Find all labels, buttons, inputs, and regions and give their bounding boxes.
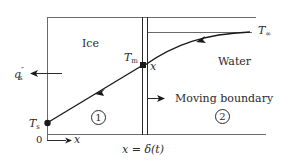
t-s-label: Ts [29,118,40,131]
heat-flux-sub: s [19,74,23,82]
region-1-number: 1 [91,108,106,125]
origin-label: 0 [36,135,42,145]
heat-flux-label: q″s [14,66,23,82]
ice-label: Ice [82,38,99,49]
t-m-label: Tm [124,52,138,65]
surface-temperature-dot [44,120,50,126]
interface-position-label: x = δ(t) [122,144,164,155]
region-1-circle: 1 [91,110,106,125]
t-s-sub: s [36,123,40,131]
x-axis-arrowhead-icon [65,138,72,144]
stefan-problem-diagram: Ice Water T∞ Tm x q″s Ts 1 Moving bounda… [0,0,282,160]
t-infinity-label: T∞ [258,25,271,38]
water-label: Water [218,56,251,67]
heat-flux-prime: ″ [21,65,24,74]
t-infinity-sub: ∞ [265,30,271,38]
interface-x-label: x [150,61,156,72]
melting-point-marker [140,62,146,68]
moving-boundary-label: Moving boundary [175,93,273,104]
x-axis-label: x [74,134,80,145]
t-m-sub: m [131,57,138,65]
region-2-number: 2 [215,107,230,124]
region-2-circle: 2 [215,109,230,124]
